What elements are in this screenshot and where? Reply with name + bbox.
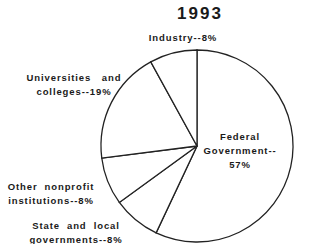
slice-label: Other nonprofitinstitutions--8% (8, 181, 95, 206)
chart-title: 1993 (177, 4, 223, 23)
slice-label: State and localgovernments--8% (29, 220, 122, 244)
pie-chart: 1993 FederalGovernment--57%State and loc… (0, 0, 310, 244)
slice-label: Universities andcolleges--19% (27, 72, 122, 97)
slice-label: Industry--8% (149, 32, 217, 43)
